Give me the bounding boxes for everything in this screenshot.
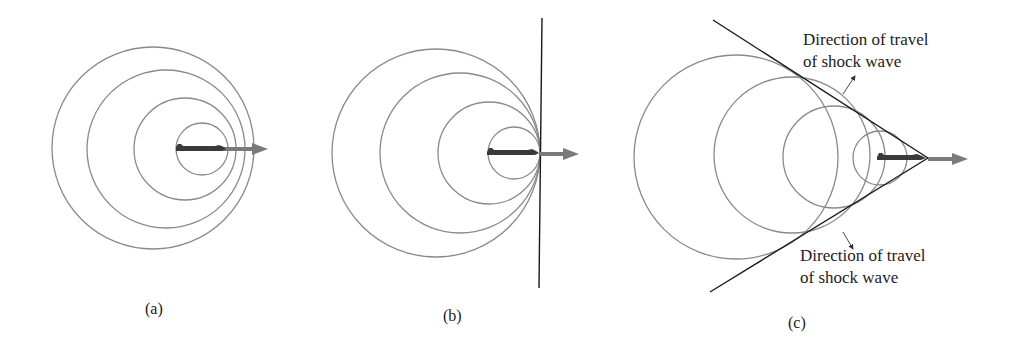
velocity-arrow-icon — [928, 153, 968, 165]
wavefront-circle — [634, 55, 838, 259]
direction-arrow-upper-icon — [843, 76, 855, 94]
annotation-upper-line2: of shock wave — [803, 52, 901, 71]
panel-label-a: (a) — [145, 300, 163, 318]
panel-a: (a) — [52, 47, 268, 318]
airplane-icon — [487, 148, 539, 155]
shock-wave-diagram: (a) (b) Direction of travel of shock wav… — [0, 0, 1010, 352]
panel-label-b: (b) — [443, 307, 462, 325]
annotation-upper-line1: Direction of travel — [803, 30, 929, 49]
panel-c: Direction of travel of shock wave Direct… — [634, 20, 968, 332]
velocity-arrow-icon — [540, 148, 579, 160]
annotation-lower-line1: Direction of travel — [800, 246, 926, 265]
wavefront-circle — [714, 77, 870, 233]
annotation-lower-line2: of shock wave — [800, 268, 898, 287]
panel-label-c: (c) — [788, 314, 806, 332]
airplane-icon — [176, 144, 226, 151]
panel-b: (b) — [332, 18, 579, 325]
